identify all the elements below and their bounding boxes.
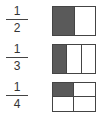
fourths-model [52,82,96,112]
unshaded-part [67,45,81,73]
fraction-bar [6,95,28,96]
numerator: 1 [6,81,28,94]
fraction-one-fourth: 1 4 [6,81,28,111]
shaded-part [53,83,74,97]
numerator: 1 [6,43,28,56]
denominator: 4 [6,98,28,111]
unshaded-part [74,97,95,111]
denominator: 2 [6,22,28,35]
fraction-bar [6,57,28,58]
thirds-model [52,44,96,74]
denominator: 3 [6,60,28,73]
halves-model [52,6,96,36]
shaded-part [53,45,67,73]
fraction-one-third: 1 3 [6,43,28,73]
unshaded-part [74,83,95,97]
unshaded-part [82,45,95,73]
fraction-one-half: 1 2 [6,5,28,35]
unshaded-part [75,7,96,35]
unshaded-part [53,97,74,111]
shaded-part [53,7,75,35]
numerator: 1 [6,5,28,18]
fraction-bar [6,19,28,20]
